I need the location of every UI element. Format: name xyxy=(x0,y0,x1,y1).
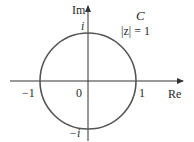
unit-circle-diagram: Im Re C |z| = 1 i −i −1 0 1 xyxy=(0,0,194,142)
label-origin: 0 xyxy=(76,86,82,100)
im-axis-label: Im xyxy=(72,3,86,17)
label-neg-one: −1 xyxy=(22,86,35,100)
label-neg-i: −i xyxy=(69,126,80,140)
curve-name: C xyxy=(136,8,145,23)
label-i: i xyxy=(81,19,84,33)
label-one: 1 xyxy=(139,86,145,100)
curve-equation: |z| = 1 xyxy=(121,24,150,38)
re-axis-label: Re xyxy=(168,87,181,101)
